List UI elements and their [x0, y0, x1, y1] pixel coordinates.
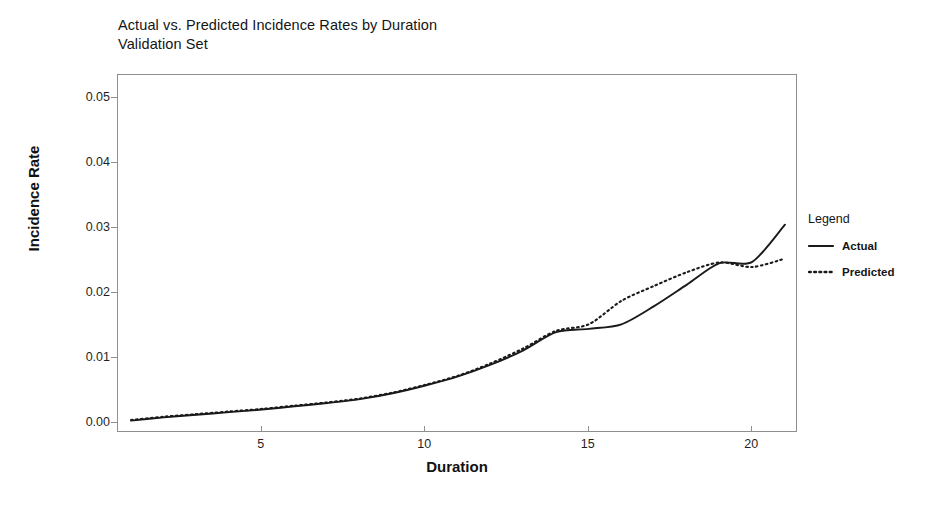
plot-lines [118, 75, 798, 433]
legend: Legend ActualPredicted [808, 212, 928, 288]
y-axis-tick-labels: 0.000.010.020.030.040.05 [54, 74, 110, 432]
dotted-line-icon [808, 266, 834, 278]
y-tick-mark [111, 422, 117, 423]
y-tick-mark [111, 292, 117, 293]
line-series-actual [131, 225, 785, 421]
chart-title: Actual vs. Predicted Incidence Rates by … [118, 16, 798, 54]
legend-item[interactable]: Predicted [808, 262, 928, 282]
x-axis-tick-labels: 5101520 [117, 437, 797, 457]
y-tick-label: 0.00 [58, 415, 110, 429]
legend-item-label: Predicted [842, 266, 894, 278]
x-tick-label: 10 [417, 437, 431, 451]
x-tick-label: 5 [257, 437, 264, 451]
x-tick-label: 15 [581, 437, 595, 451]
chart-subtitle: Validation Set [118, 35, 798, 54]
x-tick-mark [588, 426, 589, 432]
y-tick-mark [111, 357, 117, 358]
legend-title: Legend [808, 212, 928, 226]
legend-items: ActualPredicted [808, 236, 928, 282]
y-tick-label: 0.02 [58, 285, 110, 299]
plot-area [117, 74, 797, 432]
y-tick-label: 0.01 [58, 350, 110, 364]
y-tick-mark [111, 227, 117, 228]
y-tick-mark [111, 97, 117, 98]
x-axis-title: Duration [117, 458, 797, 475]
solid-line-icon [808, 240, 834, 252]
x-tick-mark [751, 426, 752, 432]
y-axis-title: Incidence Rate [25, 114, 42, 284]
y-tick-mark [111, 162, 117, 163]
line-series-predicted [131, 259, 785, 420]
chart-figure: Actual vs. Predicted Incidence Rates by … [0, 0, 934, 510]
y-tick-label: 0.03 [58, 220, 110, 234]
x-tick-mark [261, 426, 262, 432]
chart-title-main: Actual vs. Predicted Incidence Rates by … [118, 16, 798, 35]
x-tick-label: 20 [744, 437, 758, 451]
y-tick-label: 0.05 [58, 90, 110, 104]
y-tick-label: 0.04 [58, 155, 110, 169]
legend-item-label: Actual [842, 240, 877, 252]
legend-item[interactable]: Actual [808, 236, 928, 256]
x-tick-mark [424, 426, 425, 432]
